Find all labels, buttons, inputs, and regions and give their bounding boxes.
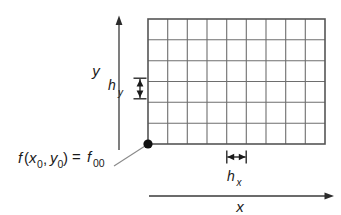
grid-horizontal-lines: [148, 40, 325, 123]
h-y-label-subscript: y: [117, 87, 124, 98]
corner-value-f-result-subscript: 00: [93, 157, 105, 169]
x-axis-label: x: [235, 198, 244, 215]
h-x-arrowhead-left: [227, 154, 234, 161]
h-y-label: h: [108, 77, 116, 93]
corner-value-label: f ( x 0 , y 0 ) = f 00: [18, 148, 105, 170]
h-y-arrowhead-up: [137, 80, 144, 87]
origin-point-dot: [143, 139, 152, 148]
x-axis-arrowhead: [325, 193, 335, 200]
grid-group: [148, 19, 325, 144]
y-axis: [116, 16, 123, 151]
y-axis-arrowhead: [116, 16, 123, 26]
corner-value-equals: =: [72, 148, 81, 165]
h-x-label-subscript: x: [236, 177, 243, 188]
corner-value-x: x: [28, 149, 37, 166]
corner-value-close-paren: ): [63, 149, 68, 166]
h-x-arrowhead-right: [239, 154, 246, 161]
grid-diagram-svg: y x h y h x: [0, 0, 341, 215]
corner-value-comma: ,: [43, 150, 47, 167]
figure-root: y x h y h x: [0, 0, 341, 215]
h-y-arrowhead-down: [137, 91, 144, 98]
h-x-label: h: [227, 168, 235, 184]
y-axis-label: y: [91, 62, 101, 79]
